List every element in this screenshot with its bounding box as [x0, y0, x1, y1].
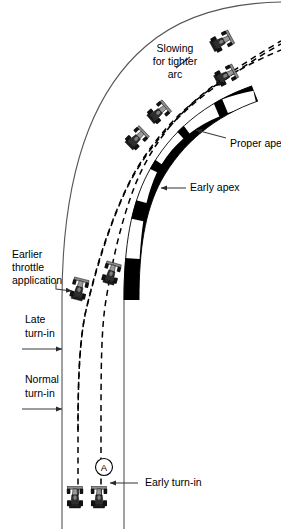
car-apex-outer — [145, 99, 172, 125]
car-start-right — [91, 487, 107, 509]
marker-a-label: A — [101, 462, 108, 473]
earlier-throttle-label-line2: throttle — [12, 261, 44, 273]
car-mid-left — [69, 277, 90, 302]
normal-turn-in-label-line2: turn-in — [25, 387, 55, 399]
early-apex-label: Early apex — [190, 181, 240, 193]
outer-track-boundary — [62, 2, 281, 529]
earlier-throttle-label-line3: application — [12, 274, 62, 286]
normal-turn-in-label-line1: Normal — [25, 373, 59, 385]
inner-track-boundary — [124, 86, 252, 529]
proper-apex-label: Proper apex — [230, 137, 281, 149]
car-mid-right — [100, 261, 122, 286]
earlier-throttle-label-line1: Earlier — [12, 248, 43, 260]
car-apex-inner — [123, 125, 150, 152]
slowing-label-line2: for tighter — [153, 55, 198, 67]
late-turn-in-label-line1: Late — [25, 313, 46, 325]
marker-a: A — [96, 459, 113, 476]
early-turn-in-label: Early turn-in — [145, 476, 202, 488]
car-start-left — [67, 487, 83, 509]
checkered-apex-curb — [124, 86, 258, 300]
racing-line-diagram: A Slowing for tighter arc Proper apex Ea… — [0, 0, 281, 529]
slowing-label-line3: arc — [168, 68, 183, 80]
late-turn-in-label-line2: turn-in — [25, 327, 55, 339]
proper-apex-leader-line — [196, 130, 226, 138]
diagram-canvas: A Slowing for tighter arc Proper apex Ea… — [0, 0, 281, 529]
normal-line — [78, 44, 281, 495]
car-exit-upper — [208, 29, 235, 54]
slowing-label-line1: Slowing — [157, 42, 194, 54]
